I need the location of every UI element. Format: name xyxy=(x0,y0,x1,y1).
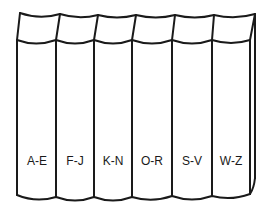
volume-label-k-n: K-N xyxy=(94,154,132,168)
volume-label-w-z: W-Z xyxy=(212,154,250,168)
volume-label-f-j: F-J xyxy=(56,154,94,168)
book-set-diagram: A-E F-J K-N O-R S-V W-Z xyxy=(0,0,269,211)
volume-label-s-v: S-V xyxy=(173,154,211,168)
books-illustration xyxy=(0,0,269,211)
volume-label-a-e: A-E xyxy=(18,154,56,168)
volume-label-o-r: O-R xyxy=(133,154,171,168)
top-back-edge xyxy=(20,13,255,18)
bottom-edge xyxy=(17,194,250,201)
top-front-edge xyxy=(17,40,250,44)
